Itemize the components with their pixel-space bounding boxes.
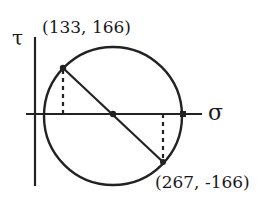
point-a-marker	[60, 65, 66, 71]
point-a-label: (133, 166)	[42, 17, 131, 37]
point-b-marker	[160, 159, 166, 165]
sigma-axis-label: σ	[208, 100, 223, 125]
mohr-circle-diagram: τ σ (133, 166) (267, -166)	[0, 0, 262, 206]
center-marker	[110, 111, 116, 117]
point-b-label: (267, -166)	[155, 172, 250, 192]
sigma1-marker	[180, 111, 186, 117]
tau-axis-label: τ	[12, 26, 23, 50]
